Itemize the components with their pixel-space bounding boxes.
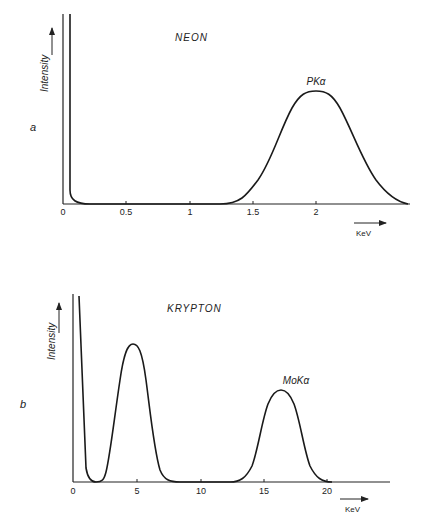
figure: a Intensity 0 0.5 1 1.5 2 KeV NEON bbox=[0, 0, 428, 527]
element-title-neon: NEON bbox=[175, 32, 208, 43]
peak-label-moka: MoKα bbox=[283, 375, 310, 386]
x-unit-b: KeV bbox=[340, 499, 368, 514]
tick-label: 1.5 bbox=[247, 207, 260, 217]
tick-label: 5 bbox=[134, 486, 139, 496]
panel-a-neon: a Intensity 0 0.5 1 1.5 2 KeV NEON bbox=[30, 14, 410, 238]
tick-label: 15 bbox=[259, 486, 269, 496]
spectrum-curve-a bbox=[70, 14, 408, 204]
panel-letter-a: a bbox=[30, 121, 36, 133]
peak-label-pka: PKα bbox=[306, 76, 325, 87]
y-axis-label-b: Intensity bbox=[46, 303, 59, 360]
intensity-label: Intensity bbox=[39, 54, 50, 92]
tick-label: 0 bbox=[60, 207, 65, 217]
intensity-label: Intensity bbox=[46, 322, 57, 360]
x-unit-a: KeV bbox=[354, 223, 386, 238]
tick-label: 0 bbox=[70, 486, 75, 496]
y-axis-label-a: Intensity bbox=[39, 28, 52, 92]
spectrum-curve-b bbox=[79, 296, 332, 482]
kev-label: KeV bbox=[356, 229, 372, 238]
caption-remnant bbox=[8, 514, 420, 524]
panel-b-krypton: b Intensity 0 5 10 15 20 KeV KRYPTON bbox=[20, 294, 390, 514]
tick-label: 20 bbox=[322, 486, 332, 496]
tick-label: 0.5 bbox=[120, 207, 133, 217]
element-title-krypton: KRYPTON bbox=[167, 303, 222, 314]
tick-label: 10 bbox=[196, 486, 206, 496]
kev-label: KeV bbox=[345, 505, 361, 514]
panel-letter-b: b bbox=[20, 398, 26, 410]
tick-label: 2 bbox=[313, 207, 318, 217]
tick-label: 1 bbox=[187, 207, 192, 217]
